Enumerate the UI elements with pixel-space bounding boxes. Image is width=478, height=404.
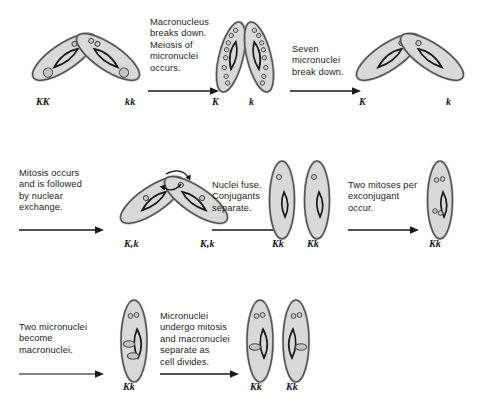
genotype-label-Kk-3: Kk <box>429 238 441 249</box>
stage-6-single-cell <box>420 158 460 242</box>
stage-5-separated-pair <box>264 158 336 242</box>
genotype-label-Kk-1: Kk <box>272 238 284 249</box>
caption-two-micronuclei-become: Two micronuclei become macronuclei. <box>19 322 119 356</box>
arrow-to-stage4 <box>19 224 105 236</box>
stage-7-single-cell <box>112 297 156 385</box>
arrow-to-stage8 <box>160 368 240 380</box>
genotype-label-K-2: K <box>359 96 366 107</box>
genotype-label-K-1: K <box>212 96 219 107</box>
genotype-label-kk: kk <box>125 96 135 107</box>
caption-mitosis-nuclear-exchange: Mitosis occurs and is followed by nuclea… <box>19 168 117 214</box>
genotype-label-KK: KK <box>36 96 50 107</box>
genotype-label-Kk-2: Kk <box>307 238 319 249</box>
genotype-label-k-1: k <box>249 96 254 107</box>
genotype-label-Kk-5: Kk <box>250 381 262 392</box>
stage-3-cell-pair <box>350 16 470 98</box>
conjugation-diagram: KK kk Macronucleus breaks down. Meiosis … <box>0 0 478 404</box>
arrow-to-stage6 <box>348 224 420 236</box>
genotype-label-k-2: k <box>446 96 451 107</box>
genotype-label-Kk-comma-1: K,k <box>124 238 139 249</box>
genotype-label-Kk-6: Kk <box>286 381 298 392</box>
stage-8-divided-pair <box>240 297 316 385</box>
stage-2-cell-pair <box>206 16 284 98</box>
stage-1-cell-pair <box>26 16 146 98</box>
genotype-label-Kk-4: Kk <box>123 381 135 392</box>
arrow-to-stage7 <box>19 368 105 380</box>
genotype-label-Kk-comma-2: K,k <box>200 238 215 249</box>
